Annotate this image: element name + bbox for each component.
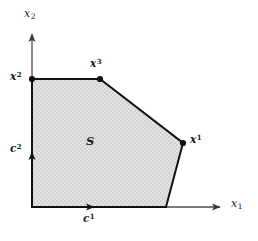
extreme-point-x3-label: x3 — [90, 58, 102, 69]
vector-c1-base: c — [83, 212, 89, 224]
x-axis-label: x1 — [231, 198, 243, 211]
extreme-point-x2-base: x — [10, 70, 16, 82]
y-axis-label-subscript: 2 — [31, 12, 36, 21]
extreme-point-x2-dot — [29, 76, 35, 82]
convex-set-diagram — [0, 0, 258, 241]
extreme-point-x1-dot — [180, 140, 186, 146]
vector-c2-base: c — [10, 142, 16, 154]
extreme-point-x3-dot — [97, 76, 103, 82]
extreme-point-x1-superscript: 1 — [197, 133, 202, 142]
extreme-point-x2-superscript: 2 — [17, 70, 22, 79]
extreme-point-x1-label: x1 — [190, 134, 202, 145]
vector-c2-superscript: 2 — [17, 142, 22, 151]
region-s-label: S — [86, 136, 94, 148]
x-axis-label-base: x — [231, 197, 237, 210]
extreme-point-x3-superscript: 3 — [97, 57, 102, 66]
figure-canvas: x2 x1 x2 x3 x1 c2 c1 S — [0, 0, 258, 241]
region-s-fill — [32, 79, 183, 207]
extreme-point-x3-base: x — [90, 57, 96, 69]
vector-c1-label: c1 — [83, 213, 95, 224]
x-axis-label-subscript: 1 — [238, 202, 243, 211]
y-axis-label-base: x — [24, 7, 30, 20]
vector-c2-label: c2 — [10, 143, 22, 154]
extreme-point-x1-base: x — [190, 133, 196, 145]
y-axis-label: x2 — [24, 8, 36, 21]
extreme-point-x2-label: x2 — [10, 71, 22, 82]
vector-c1-superscript: 1 — [90, 212, 95, 221]
